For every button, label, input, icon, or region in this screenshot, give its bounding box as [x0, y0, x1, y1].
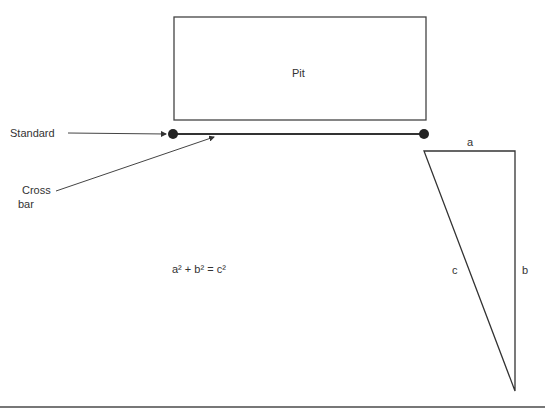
crossbar-arrow: [56, 137, 214, 191]
standard-left-dot: [168, 129, 178, 139]
standard-arrow: [68, 133, 166, 134]
standard-right-dot: [419, 129, 429, 139]
standard-label: Standard: [10, 127, 55, 140]
crossbar-label-line2: bar: [18, 198, 34, 211]
side-c-label: c: [452, 264, 458, 277]
right-triangle: [424, 151, 515, 391]
pythagorean-equation: a² + b² = c²: [172, 263, 226, 276]
crossbar-label-line1: Cross: [22, 184, 51, 197]
side-b-label: b: [522, 264, 528, 277]
diagram-graphics: [0, 0, 545, 408]
side-a-label: a: [467, 136, 473, 149]
pit-label: Pit: [292, 67, 305, 80]
pythagoras-crossbar-diagram: Pit Standard Cross bar a² + b² = c² a b …: [0, 0, 545, 408]
